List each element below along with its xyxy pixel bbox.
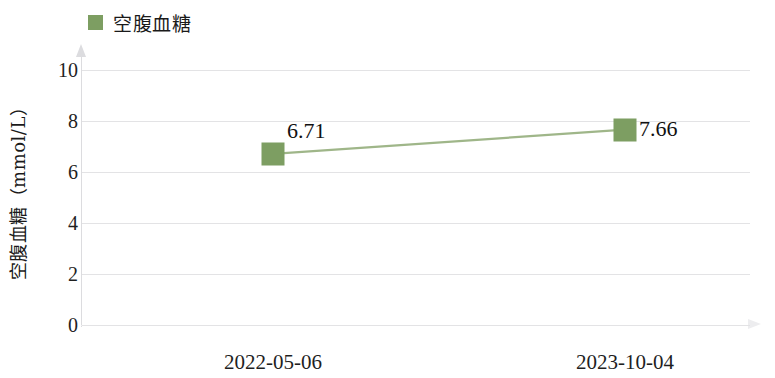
y-axis-arrow-icon	[76, 44, 86, 57]
y-axis-line	[81, 55, 82, 327]
data-point-marker[interactable]	[614, 118, 637, 141]
plot-area: 0246810 6.717.66 2022-05-062023-10-04	[0, 0, 775, 378]
gridline	[82, 325, 750, 326]
data-point-label: 6.71	[287, 118, 326, 144]
y-axis-tick-label: 6	[42, 161, 78, 184]
gridline	[82, 70, 750, 71]
data-point-marker[interactable]	[262, 142, 285, 165]
y-axis-tick-label: 8	[42, 110, 78, 133]
series-line	[273, 130, 625, 154]
y-axis-tick-label: 4	[42, 212, 78, 235]
series-line-layer	[0, 0, 775, 378]
x-axis-tick-label: 2022-05-06	[224, 350, 322, 375]
gridline	[82, 223, 750, 224]
x-axis-arrow-icon	[748, 319, 761, 329]
data-point-label: 7.66	[639, 116, 678, 142]
y-axis-tick-label: 10	[42, 59, 78, 82]
x-axis-tick-label: 2023-10-04	[576, 350, 674, 375]
chart-container: 空腹血糖 空腹血糖（mmol/L） 0246810 6.717.66 2022-…	[0, 0, 775, 378]
gridline	[82, 172, 750, 173]
gridline	[82, 274, 750, 275]
y-axis-tick-label: 2	[42, 263, 78, 286]
y-axis-tick-label: 0	[42, 314, 78, 337]
